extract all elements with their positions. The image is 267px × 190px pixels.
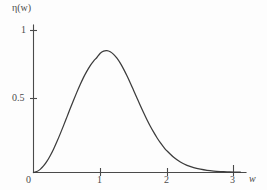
x-tick-label-1: 1 (97, 175, 102, 185)
y-axis-title: η(w) (12, 3, 31, 13)
x-tick-label-3: 3 (230, 175, 235, 185)
figure-container: η(w) w 1 0.5 0 1 2 3 (0, 0, 267, 190)
x-tick-label-0: 0 (26, 175, 31, 185)
plot-canvas (0, 0, 267, 190)
y-tick-label-0point5: 0.5 (12, 93, 25, 103)
x-tick-label-2: 2 (164, 175, 169, 185)
eta-curve (34, 51, 241, 173)
y-tick-label-1: 1 (21, 25, 26, 35)
x-axis-title: w (249, 174, 256, 184)
